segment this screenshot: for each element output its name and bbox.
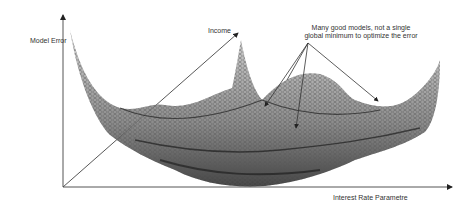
annotation-line-2: global minimum to optimize the error	[295, 32, 427, 40]
income-axis-label: Income	[208, 27, 231, 35]
error-surface	[70, 30, 440, 186]
y-axis-label: Model Error	[30, 37, 67, 45]
annotation-line-1: Many good models, not a single	[295, 24, 427, 32]
annotation-text: Many good models, not a single global mi…	[295, 24, 427, 41]
error-surface-diagram: Model Error Income Interest Rate Paramet…	[0, 0, 472, 211]
x-axis-label: Interest Rate Parametre	[333, 194, 408, 202]
